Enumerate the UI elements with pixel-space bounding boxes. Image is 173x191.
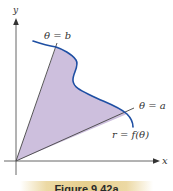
theta-a-label: θ = a bbox=[139, 100, 166, 111]
y-axis-label: y bbox=[12, 5, 19, 15]
polar-area-diagram: y x θ = b θ = a r = f(θ) bbox=[0, 0, 173, 191]
figure-caption: Figure 9.42a bbox=[0, 183, 173, 191]
curve-label: r = f(θ) bbox=[112, 129, 149, 140]
theta-b-label: θ = b bbox=[44, 30, 71, 41]
y-axis-arrow-icon bbox=[13, 18, 19, 25]
x-axis-label: x bbox=[162, 155, 168, 166]
x-axis-arrow-icon bbox=[153, 158, 160, 164]
